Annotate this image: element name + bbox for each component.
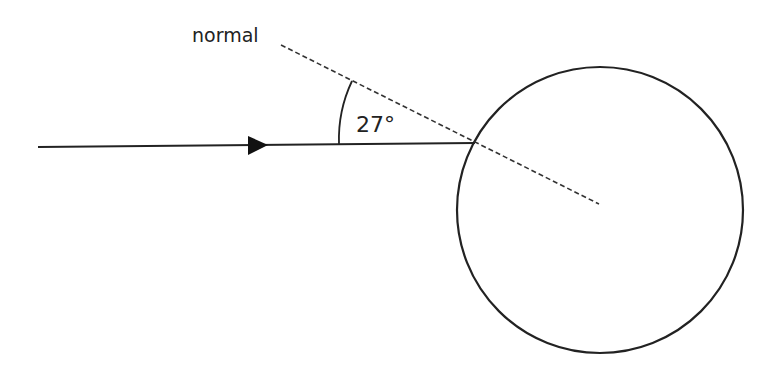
- sphere-circle: [457, 67, 743, 353]
- arrow-right-icon: [248, 136, 268, 155]
- normal-label: normal: [192, 24, 259, 46]
- normal-line: [281, 45, 599, 204]
- angle-label: 27°: [356, 112, 395, 137]
- refraction-diagram: normal 27°: [0, 0, 776, 385]
- angle-arc: [339, 81, 352, 144]
